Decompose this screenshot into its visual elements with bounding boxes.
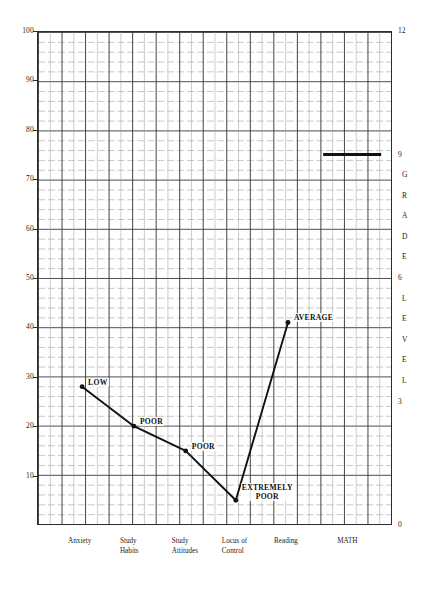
grade-word-letter: E (402, 253, 407, 261)
x-category-label: MATH (337, 537, 357, 547)
grade-word-letter: D (402, 233, 407, 241)
grade-word-letter: R (402, 192, 407, 200)
x-category-label: Anxiety (68, 537, 91, 547)
level-word-letter: L (402, 295, 407, 303)
grade-tick-label: 6 (398, 274, 402, 282)
x-category-line: Reading (274, 537, 298, 547)
plot-area (37, 31, 392, 525)
x-category-label: StudyHabits (120, 537, 139, 556)
y-tick-label: 50 (4, 274, 34, 282)
x-category-line: Study (120, 537, 139, 547)
y-tick-label: 40 (4, 323, 34, 331)
x-category-line: Control (222, 547, 247, 557)
y-tick-label: 60 (4, 225, 34, 233)
level-word-letter: L (402, 377, 407, 385)
grade-tick-label: 0 (398, 521, 402, 529)
x-category-line: Locus of (222, 537, 247, 547)
y-tick-label: 80 (4, 126, 34, 134)
level-word-letter: V (402, 336, 407, 344)
x-category-line: Attitudes (172, 547, 198, 557)
x-category-label: Reading (274, 537, 298, 547)
grade-word-letter: G (402, 171, 407, 179)
x-category-line: MATH (337, 537, 357, 547)
grade-tick-label: 3 (398, 398, 402, 406)
x-category-label: StudyAttitudes (172, 537, 198, 556)
grid-lines (38, 32, 391, 524)
x-category-line: Anxiety (68, 537, 91, 547)
y-axis-labels: 100908070605040302010 (0, 31, 34, 525)
x-category-label: Locus ofControl (222, 537, 247, 556)
y-tick-label: 30 (4, 373, 34, 381)
grade-level-axis: 129630GRADELEVEL (394, 31, 424, 525)
x-axis-category-labels: AnxietyStudyHabitsStudyAttitudesLocus of… (0, 537, 424, 577)
grade-word-letter: A (402, 212, 407, 220)
level-word-letter: E (402, 315, 407, 323)
y-tick-label: 20 (4, 422, 34, 430)
y-tick-label: 10 (4, 472, 34, 480)
y-tick-label: 70 (4, 175, 34, 183)
level-word-letter: E (402, 356, 407, 364)
x-category-line: Study (172, 537, 198, 547)
grade-tick-label: 9 (398, 151, 402, 159)
grade-tick-label: 12 (398, 27, 406, 35)
y-tick-label: 90 (4, 76, 34, 84)
y-tick-label: 100 (4, 27, 34, 35)
grade-level-profile-chart: 100908070605040302010 LOWPOORPOOREXTREME… (0, 0, 424, 590)
x-category-line: Habits (120, 547, 139, 557)
